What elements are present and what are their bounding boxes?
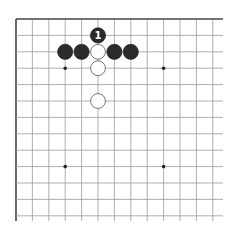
black-stone[interactable]: [123, 44, 138, 59]
star-point: [162, 66, 166, 70]
white-stone[interactable]: [91, 44, 106, 59]
black-stone[interactable]: [107, 44, 122, 59]
go-board[interactable]: 1: [0, 0, 237, 235]
star-point: [63, 66, 67, 70]
star-point: [63, 165, 67, 169]
white-stone[interactable]: [91, 94, 106, 109]
black-stone[interactable]: [74, 44, 89, 59]
move-number-label: 1: [95, 30, 102, 41]
white-stone[interactable]: [91, 61, 106, 76]
star-point: [162, 165, 166, 169]
black-stone[interactable]: 1: [90, 28, 105, 43]
black-stone[interactable]: [58, 44, 73, 59]
